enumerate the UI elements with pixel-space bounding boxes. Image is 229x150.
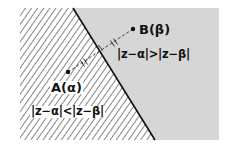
region-closer-to-b-label: |z−α|>|z−β| [117,49,190,61]
point-b-dot [131,27,135,31]
point-a-dot [66,70,70,74]
point-b-label: B(β) [139,23,170,36]
diagram-canvas [0,0,229,150]
point-a-label: A(α) [50,81,83,94]
region-closer-to-a-label: |z−α|<|z−β| [30,106,105,118]
